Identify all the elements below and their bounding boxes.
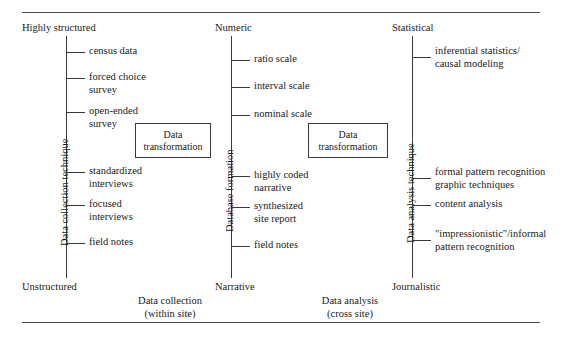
item-label-formal-pattern-recognition: formal pattern recognition graphic techn… <box>435 166 545 191</box>
horizontal-rule-bottom <box>22 322 540 323</box>
tick-mark <box>232 207 250 208</box>
diagram-canvas: Highly structured Data collection techni… <box>0 0 561 339</box>
axis-title-data-analysis: Data analysis technique <box>405 143 417 243</box>
item-label-content-analysis: content analysis <box>435 198 502 211</box>
bottom-pole-data-collection: Unstructured <box>22 281 77 293</box>
caption-data-analysis: Data analysis (cross site) <box>290 295 410 320</box>
horizontal-rule-top <box>22 12 540 13</box>
tick-mark <box>413 205 431 206</box>
axis-title-database-formation: Database formation <box>224 149 236 232</box>
item-label-focused-interviews: focused interviews <box>89 198 133 223</box>
tick-mark <box>67 78 85 79</box>
top-pole-data-collection: Highly structured <box>22 22 96 34</box>
tick-mark <box>232 246 250 247</box>
tick-mark <box>413 178 431 179</box>
data-transformation-box-left: Data transformation <box>135 123 211 158</box>
data-transformation-box-right: Data transformation <box>308 123 388 158</box>
item-label-census-data: census data <box>89 45 137 58</box>
item-label-impressionistic-pattern-recognition: "impressionistic"/informal pattern recog… <box>435 228 546 253</box>
bottom-pole-data-analysis: Journalistic <box>392 281 440 293</box>
item-label-field-notes-database: field notes <box>254 239 298 252</box>
tick-mark <box>232 115 250 116</box>
item-label-field-notes-collection: field notes <box>89 236 133 249</box>
item-label-inferential-statistics: inferential statistics/ causal modeling <box>435 45 520 70</box>
item-label-open-ended-survey: open-ended survey <box>89 105 138 130</box>
tick-mark <box>232 176 250 177</box>
caption-data-collection: Data collection (within site) <box>110 295 230 320</box>
top-pole-data-analysis: Statistical <box>392 22 433 34</box>
item-label-interval-scale: interval scale <box>254 80 310 93</box>
tick-mark <box>67 112 85 113</box>
top-pole-database-formation: Numeric <box>215 22 252 34</box>
item-label-highly-coded-narrative: highly coded narrative <box>254 169 309 194</box>
item-label-forced-choice-survey: forced choice survey <box>89 71 146 96</box>
item-label-ratio-scale: ratio scale <box>254 53 297 66</box>
tick-mark <box>232 87 250 88</box>
item-label-nominal-scale: nominal scale <box>254 108 312 121</box>
tick-mark <box>67 205 85 206</box>
bottom-pole-database-formation: Narrative <box>215 281 255 293</box>
tick-mark <box>232 60 250 61</box>
tick-mark <box>67 243 85 244</box>
axis-title-data-collection: Data collection technique <box>59 139 71 246</box>
tick-mark <box>67 172 85 173</box>
tick-mark <box>67 52 85 53</box>
item-label-synthesized-site-report: synthesized site report <box>254 200 303 225</box>
item-label-standardized-interviews: standardized interviews <box>89 165 142 190</box>
tick-mark <box>413 240 431 241</box>
tick-mark <box>413 57 431 58</box>
